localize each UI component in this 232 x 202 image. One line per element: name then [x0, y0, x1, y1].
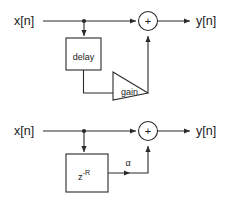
lower-gain-label: α [125, 158, 130, 168]
lower-delay-block-label-superscript: -R [83, 168, 90, 175]
lower-alpha-branch-arrow [124, 170, 130, 175]
lower-output-label: y[n] [196, 124, 216, 138]
upper-delay-block-label: delay [73, 52, 95, 62]
lower-diagram: z-R α + x[n] y[n] [14, 122, 216, 193]
lower-summing-junction-label: + [145, 125, 151, 137]
upper-gain-block-label: gain [121, 87, 138, 97]
figure-canvas: delay gain + x[n] y[n] [0, 0, 232, 202]
lower-input-label: x[n] [14, 124, 34, 138]
upper-output-label: y[n] [196, 14, 216, 28]
upper-diagram: delay gain + x[n] y[n] [14, 12, 216, 101]
upper-delay-to-gain-wire [84, 70, 114, 93]
block-diagram-svg: delay gain + x[n] y[n] [0, 0, 232, 202]
upper-summing-junction-label: + [145, 15, 151, 27]
upper-input-label: x[n] [14, 14, 34, 28]
